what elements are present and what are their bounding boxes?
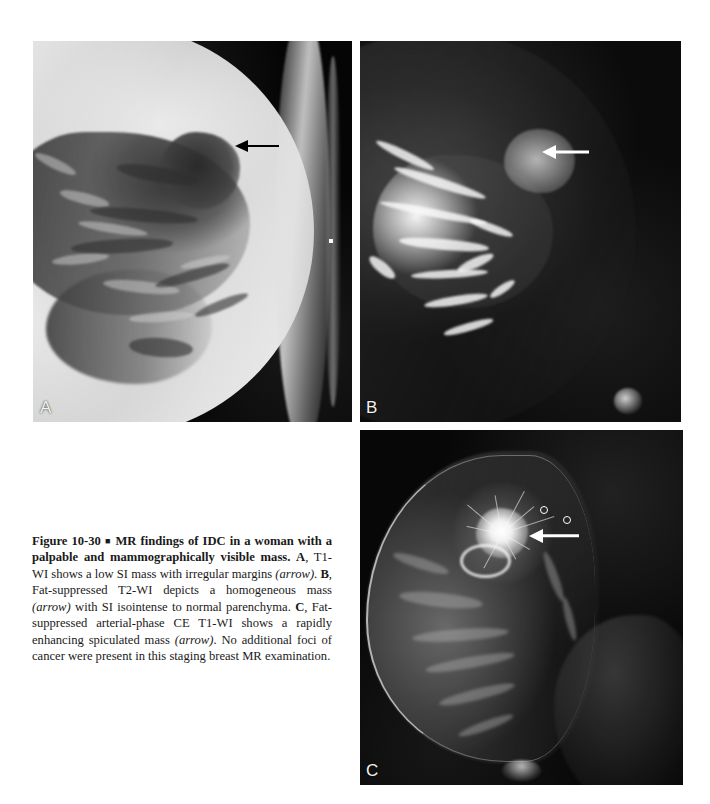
- figure-caption: Figure 10-30 ■ MR findings of IDC in a w…: [32, 533, 332, 665]
- arrow-annotation-a: [235, 139, 279, 152]
- arrow-head-c: [529, 529, 543, 543]
- arrow-shaft-a: [245, 145, 279, 147]
- chest-wall-a: [275, 41, 329, 422]
- image-marker-dot-a: [329, 239, 333, 243]
- arrow-annotation-b: [542, 145, 589, 159]
- caption-label-c: C: [295, 600, 304, 614]
- figure-number: Figure 10-30: [32, 534, 101, 548]
- image-marker-ring-1: [540, 506, 548, 514]
- panel-b-t2wi: B: [360, 41, 681, 422]
- mri-scan-image-c: [360, 430, 683, 785]
- homogeneous-mass-b: [504, 129, 575, 194]
- panel-letter-c: C: [366, 762, 379, 779]
- mri-scan-image-a: [33, 41, 352, 422]
- caption-label-b: B: [320, 567, 328, 581]
- arrow-shaft-c: [542, 534, 579, 538]
- duct-ring-c: [460, 544, 511, 578]
- panel-letter-a: A: [40, 399, 52, 416]
- arrow-annotation-c: [529, 528, 579, 543]
- panel-c-ce-t1wi: C: [360, 430, 683, 785]
- arrow-shaft-b: [554, 151, 589, 154]
- caption-tail-b: with SI isointense to normal parenchyma.: [71, 600, 295, 614]
- figure-separator-icon: ■: [105, 536, 111, 546]
- caption-arrow-c: (arrow): [175, 633, 214, 647]
- caption-label-a: A: [296, 550, 305, 564]
- caption-arrow-a: (arrow): [275, 567, 314, 581]
- figure-page: A B: [0, 0, 710, 804]
- skin-edge-a: [325, 56, 341, 407]
- caption-arrow-b: (arrow): [32, 600, 71, 614]
- panel-letter-b: B: [366, 399, 378, 416]
- panel-a-t1wi: A: [33, 41, 352, 422]
- mri-scan-image-b: [360, 41, 681, 422]
- image-marker-ring-2: [563, 516, 571, 524]
